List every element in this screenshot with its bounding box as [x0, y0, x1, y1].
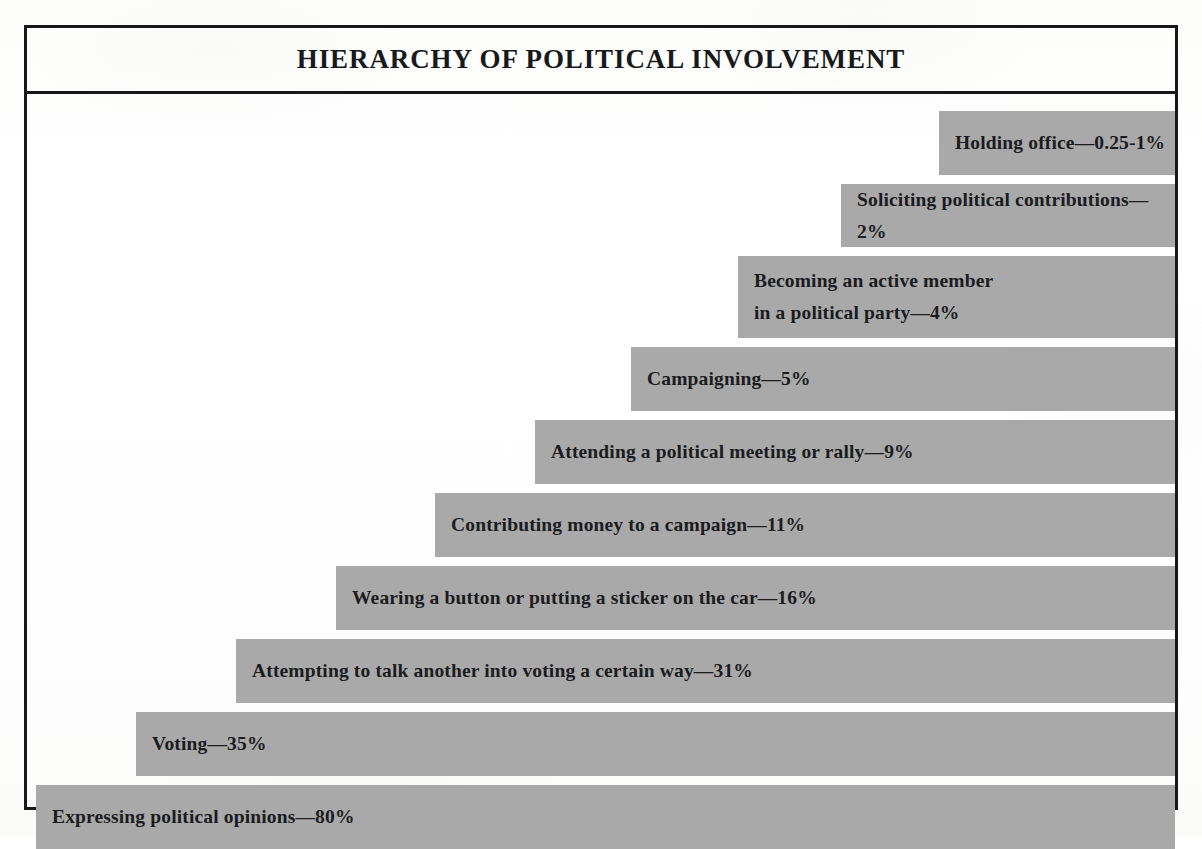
bar-row: Attending a political meeting or rally—9… — [535, 420, 1175, 484]
bar-label: Campaigning—5% — [647, 363, 811, 395]
bar-row: Holding office—0.25-1% — [939, 111, 1175, 175]
bar-label: Expressing political opinions—80% — [52, 801, 355, 833]
bar-row: Campaigning—5% — [631, 347, 1175, 411]
bar-row: Contributing money to a campaign—11% — [435, 493, 1175, 557]
bar-label: Attending a political meeting or rally—9… — [551, 436, 914, 468]
bar-row: Attempting to talk another into voting a… — [236, 639, 1175, 703]
bar-row: Wearing a button or putting a sticker on… — [336, 566, 1175, 630]
figure-title-band: HIERARCHY OF POLITICAL INVOLVEMENT — [27, 28, 1175, 94]
bar-label: Becoming an active member in a political… — [754, 265, 993, 328]
bar-label: Attempting to talk another into voting a… — [252, 655, 753, 687]
bar-row: Expressing political opinions—80% — [36, 785, 1175, 849]
bar-label: Holding office—0.25-1% — [955, 127, 1165, 159]
bar-label: Soliciting political contributions—2% — [857, 184, 1175, 247]
bar-row: Becoming an active member in a political… — [738, 256, 1175, 338]
bar-label: Voting—35% — [152, 728, 267, 760]
figure-title: HIERARCHY OF POLITICAL INVOLVEMENT — [297, 44, 905, 75]
figure-frame: HIERARCHY OF POLITICAL INVOLVEMENT Holdi… — [24, 25, 1178, 810]
bar-row: Soliciting political contributions—2% — [841, 184, 1175, 247]
bar-label: Wearing a button or putting a sticker on… — [352, 582, 817, 614]
bar-label: Contributing money to a campaign—11% — [451, 509, 805, 541]
bar-row: Voting—35% — [136, 712, 1175, 776]
bar-chart-area: Holding office—0.25-1%Soliciting politic… — [27, 94, 1175, 807]
